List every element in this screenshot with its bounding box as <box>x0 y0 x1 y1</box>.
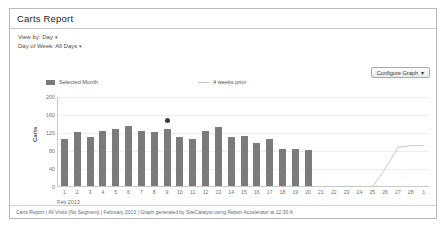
x-axis-tick-label: 21 <box>318 189 324 195</box>
prior-period-line <box>58 97 430 187</box>
x-axis-tick-label: 19 <box>292 189 298 195</box>
x-axis-tick-label: 5 <box>114 189 117 195</box>
report-panel: Carts Report View by: Day▾ Day of Week: … <box>9 8 437 219</box>
x-axis-tick-label: 1 <box>63 189 66 195</box>
x-axis-tick-label: 18 <box>280 189 286 195</box>
x-axis-tick-label: 11 <box>190 189 195 195</box>
y-axis-tick-label: 160 <box>46 112 55 118</box>
data-point-marker[interactable] <box>165 118 170 123</box>
y-axis-tick-label: 120 <box>46 130 55 136</box>
x-axis-tick-label: 12 <box>203 189 209 195</box>
x-axis-tick-label: 10 <box>177 189 183 195</box>
x-axis-tick-label: 27 <box>395 189 401 195</box>
chevron-down-icon: ▾ <box>55 34 58 40</box>
x-axis-tick-label: 9 <box>166 189 169 195</box>
x-axis-tick-label: 7 <box>140 189 143 195</box>
legend-bar-swatch-icon <box>46 80 55 85</box>
x-axis-tick-label: 20 <box>305 189 311 195</box>
legend-item-label: Selected Month <box>59 79 98 85</box>
configure-graph-label: Configure Graph <box>377 70 418 76</box>
chart-legend: Selected Month 4 weeks prior <box>46 79 376 89</box>
legend-item-selected-month[interactable]: Selected Month <box>46 79 98 85</box>
page-title: Carts Report <box>17 13 73 24</box>
footer-caption: Carts Report | All Visits (No Segment) |… <box>16 209 293 215</box>
filter-group: View by: Day▾ Day of Week: All Days▾ <box>18 33 82 51</box>
x-axis-tick-label: 16 <box>254 189 260 195</box>
y-axis-tick-label: 40 <box>49 166 55 172</box>
x-axis-tick-label: 25 <box>369 189 375 195</box>
chevron-down-icon: ▾ <box>79 43 82 49</box>
filter-day-of-week[interactable]: Day of Week: All Days▾ <box>18 42 82 51</box>
x-axis-tick-label: 8 <box>153 189 156 195</box>
chevron-down-icon: ▾ <box>421 70 424 76</box>
y-axis-tick-label: 200 <box>46 94 55 100</box>
x-axis-tick-label: 13 <box>215 189 221 195</box>
legend-line-swatch-icon <box>198 82 209 83</box>
y-axis-label: Carts <box>32 127 38 142</box>
filter-view-by[interactable]: View by: Day▾ <box>18 33 82 42</box>
x-axis-tick-label: 28 <box>408 189 414 195</box>
y-axis-tick-label: 0 <box>52 184 55 190</box>
chart-plot-area: 0408012016020012345678910111213141516171… <box>57 97 429 187</box>
y-axis-tick-label: 80 <box>49 148 55 154</box>
screenshot-root: Carts Report View by: Day▾ Day of Week: … <box>0 0 447 228</box>
panel-footer: Carts Report | All Visits (No Segment) |… <box>10 205 436 218</box>
x-axis-tick-label: 3 <box>89 189 92 195</box>
configure-graph-button[interactable]: Configure Graph ▾ <box>371 67 430 78</box>
x-axis-tick-label: 2 <box>76 189 79 195</box>
x-axis-tick-label: 14 <box>228 189 234 195</box>
x-axis-tick-label: 22 <box>331 189 337 195</box>
panel-title-bar: Carts Report <box>10 9 436 29</box>
legend-item-4-weeks-prior[interactable]: 4 weeks prior <box>198 79 246 85</box>
x-axis-tick-label: 23 <box>344 189 350 195</box>
filter-view-by-label: View by: Day <box>18 34 53 40</box>
x-axis-tick-label: 6 <box>127 189 130 195</box>
x-axis-tick-label: 15 <box>241 189 247 195</box>
x-axis-tick-label: 4 <box>101 189 104 195</box>
x-axis-tick-label: 1 <box>422 189 425 195</box>
x-axis-tick-label: 24 <box>357 189 363 195</box>
x-axis-tick-label: 26 <box>382 189 388 195</box>
legend-item-label: 4 weeks prior <box>213 79 246 85</box>
x-axis-tick-label: 17 <box>267 189 273 195</box>
filter-day-of-week-label: Day of Week: All Days <box>18 43 77 49</box>
